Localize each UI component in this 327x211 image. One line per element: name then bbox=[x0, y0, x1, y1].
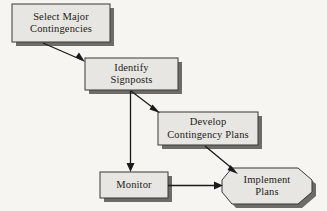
node-develop-contingency-plans bbox=[158, 112, 258, 145]
node-identify-signposts bbox=[85, 58, 178, 90]
node-select-major-contingencies bbox=[12, 4, 110, 42]
flowchart-canvas: Select Major Contingencies Identify Sign… bbox=[0, 0, 327, 211]
arrow-monitor-to-implement bbox=[168, 182, 223, 190]
arrow-identify-to-develop bbox=[131, 91, 160, 113]
arrow-develop-to-implement bbox=[205, 146, 238, 174]
shape-bodies bbox=[12, 4, 312, 204]
arrow-identify-to-monitor bbox=[127, 91, 135, 172]
node-monitor bbox=[100, 172, 168, 198]
flowchart-graphics bbox=[0, 0, 327, 211]
node-implement-plans bbox=[222, 168, 312, 204]
